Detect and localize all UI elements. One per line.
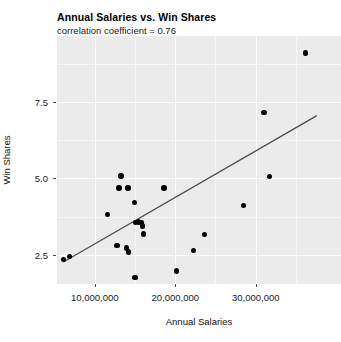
chart-subtitle: correlation coefficient = 0.76 xyxy=(57,25,176,36)
regression-line-layer xyxy=(57,36,341,284)
x-tick-label: 10,000,000 xyxy=(71,292,119,303)
x-tick-mark xyxy=(95,284,96,287)
regression-line xyxy=(63,116,316,262)
plot-panel xyxy=(57,36,341,284)
data-point xyxy=(174,268,179,273)
data-point xyxy=(267,174,272,179)
y-axis-title: Win Shares xyxy=(1,135,12,184)
x-tick-mark xyxy=(175,284,176,287)
data-point xyxy=(132,275,137,280)
y-tick-mark xyxy=(53,102,56,103)
data-point xyxy=(114,243,119,248)
x-axis-title: Annual Salaries xyxy=(166,316,233,327)
data-point xyxy=(126,249,131,254)
y-tick-label: 2.5 xyxy=(35,249,48,260)
chart-title: Annual Salaries vs. Win Shares xyxy=(57,11,216,23)
y-tick-label: 5.0 xyxy=(35,173,48,184)
x-tick-mark xyxy=(256,284,257,287)
x-tick-label: 20,000,000 xyxy=(151,292,199,303)
y-tick-label: 7.5 xyxy=(35,96,48,107)
data-point xyxy=(261,110,266,115)
data-point xyxy=(140,223,145,228)
data-point xyxy=(118,173,123,178)
data-point xyxy=(303,50,308,55)
scatter-chart: Annual Salaries vs. Win Shares correlati… xyxy=(0,0,341,342)
y-tick-mark xyxy=(53,255,56,256)
data-point xyxy=(141,231,146,236)
data-point xyxy=(125,185,130,190)
data-point xyxy=(191,248,196,253)
x-tick-label: 30,000,000 xyxy=(232,292,280,303)
y-tick-mark xyxy=(53,178,56,179)
data-point xyxy=(161,185,166,190)
data-point xyxy=(116,185,121,190)
